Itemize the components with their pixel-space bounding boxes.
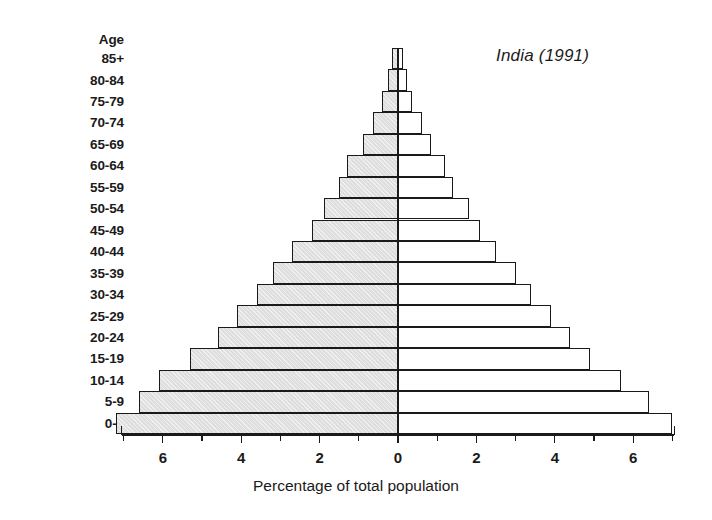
bar-female-35-39: [398, 262, 516, 283]
bar-male-55-59: [339, 177, 398, 198]
x-tick--7: [123, 434, 124, 441]
bar-male-15-19: [190, 348, 398, 369]
x-tick-5: [593, 434, 594, 441]
bar-female-80-84: [398, 69, 407, 90]
x-tick-0: [397, 434, 398, 443]
bar-male-70-74: [373, 112, 398, 133]
x-tick-1: [437, 434, 438, 441]
x-tick-2: [476, 434, 477, 443]
x-tick-label-2: 2: [472, 450, 480, 465]
bar-female-20-24: [398, 327, 570, 348]
bar-male-25-29: [237, 305, 398, 326]
bar-female-55-59: [398, 177, 453, 198]
x-axis-title: Percentage of total population: [0, 477, 712, 495]
bar-female-50-54: [398, 198, 469, 219]
bar-male-50-54: [324, 198, 398, 219]
bar-female-70-74: [398, 112, 422, 133]
x-tick--1: [358, 434, 359, 441]
bar-female-65-69: [398, 134, 431, 155]
x-tick--5: [201, 434, 202, 441]
bar-female-85+: [398, 48, 403, 69]
bar-female-5-9: [398, 391, 649, 412]
x-tick-7: [672, 434, 673, 441]
x-tick--2: [319, 434, 320, 443]
x-tick-6: [633, 434, 634, 443]
x-tick--4: [241, 434, 242, 443]
bar-female-0-4: [398, 413, 672, 434]
bar-male-0-4: [116, 413, 398, 434]
bar-male-65-69: [363, 134, 398, 155]
bar-male-20-24: [218, 327, 398, 348]
x-tick--6: [162, 434, 163, 443]
bar-male-40-44: [292, 241, 398, 262]
x-tick--3: [280, 434, 281, 441]
population-pyramid-chart: India (1991) Age 0-45-910-1415-1920-2425…: [0, 0, 712, 520]
bar-male-45-49: [312, 220, 398, 241]
bar-female-15-19: [398, 348, 590, 369]
bar-male-35-39: [273, 262, 398, 283]
x-tick-label--4: 4: [237, 450, 245, 465]
bar-male-5-9: [139, 391, 398, 412]
x-tick-label-0: 0: [394, 450, 402, 465]
x-tick-4: [554, 434, 555, 443]
x-axis-endcap-right: [674, 426, 675, 435]
x-tick-label--6: 6: [159, 450, 167, 465]
bar-male-75-79: [382, 91, 398, 112]
bar-female-30-34: [398, 284, 531, 305]
x-tick-label-6: 6: [629, 450, 637, 465]
bar-female-75-79: [398, 91, 412, 112]
bar-male-30-34: [257, 284, 398, 305]
bar-male-80-84: [388, 69, 398, 90]
bar-female-45-49: [398, 220, 480, 241]
x-axis-endcap-left: [121, 426, 122, 435]
bar-female-25-29: [398, 305, 551, 326]
x-tick-label--2: 2: [315, 450, 323, 465]
plot-area: Males Females 6420246: [0, 0, 712, 520]
bar-female-40-44: [398, 241, 496, 262]
x-tick-label-4: 4: [551, 450, 559, 465]
x-tick-3: [515, 434, 516, 441]
bar-female-60-64: [398, 155, 445, 176]
bar-male-60-64: [347, 155, 398, 176]
bar-male-10-14: [159, 370, 398, 391]
bar-female-10-14: [398, 370, 621, 391]
